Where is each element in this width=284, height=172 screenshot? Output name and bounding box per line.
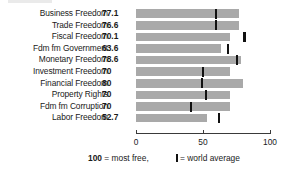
- legend-most-free-text: = most free,: [102, 153, 149, 163]
- bar-track: [136, 79, 284, 88]
- category-label: Monetary Freedom: [0, 54, 108, 66]
- chart-row: Business Freedom77.1: [0, 8, 284, 20]
- world-average-marker: [205, 90, 207, 100]
- legend-world-average-text: = world average: [180, 153, 240, 163]
- world-average-marker: [218, 113, 220, 123]
- legend-most-free: 100 = most free,: [88, 151, 149, 165]
- legend-most-free-value: 100: [88, 153, 102, 163]
- x-axis-tick: [203, 130, 204, 134]
- chart-row: Trade Freedom76.6: [0, 20, 284, 32]
- bar-track: [136, 21, 284, 30]
- category-label: Trade Freedom: [0, 20, 108, 32]
- chart-row: Financial Freedom80: [0, 78, 284, 90]
- x-axis-tick: [270, 130, 271, 134]
- world-average-marker: [190, 102, 192, 112]
- world-average-marker: [236, 55, 238, 65]
- chart-row: Property Rights70: [0, 89, 284, 101]
- world-average-marker: [215, 20, 217, 30]
- chart-row: Fdm fm Corruption70: [0, 101, 284, 113]
- value-bar: [136, 21, 239, 30]
- category-label: Labor Freedom: [0, 112, 108, 124]
- value-label: 70.1: [102, 31, 129, 43]
- world-average-marker: [227, 44, 229, 54]
- chart-row: Monetary Freedom78.6: [0, 54, 284, 66]
- chart-row: Investment Freedom70: [0, 66, 284, 78]
- value-label: 63.6: [102, 43, 129, 55]
- bar-track: [136, 9, 284, 18]
- value-bar: [136, 33, 230, 42]
- value-bar: [136, 114, 207, 123]
- value-bar: [136, 67, 230, 76]
- value-label: 70: [102, 89, 129, 101]
- category-label: Property Rights: [0, 89, 108, 101]
- value-bar: [136, 79, 243, 88]
- value-label: 76.6: [102, 20, 129, 32]
- category-label: Business Freedom: [0, 8, 108, 20]
- x-axis-tick-label: 50: [198, 137, 207, 147]
- chart-row: Labor Freedom52.7: [0, 112, 284, 124]
- value-label: 77.1: [102, 8, 129, 20]
- world-average-marker: [215, 9, 217, 19]
- bar-track: [136, 56, 284, 65]
- legend-world-average: = world average: [176, 151, 240, 165]
- bar-track: [136, 102, 284, 111]
- economic-freedom-bar-chart: Business Freedom77.1Trade Freedom76.6Fis…: [0, 0, 284, 172]
- bar-track: [136, 91, 284, 100]
- category-label: Fdm fm Corruption: [0, 101, 108, 113]
- value-label: 80: [102, 78, 129, 90]
- bar-track: [136, 44, 284, 53]
- x-axis-tick-label: 0: [134, 137, 139, 147]
- category-label: Financial Freedom: [0, 78, 108, 90]
- value-label: 70: [102, 101, 129, 113]
- world-average-marker: [243, 32, 245, 42]
- chart-row: Fdm fm Government63.6: [0, 43, 284, 55]
- value-label: 70: [102, 66, 129, 78]
- cropped-title-remnant: [8, 0, 52, 3]
- bar-track: [136, 114, 284, 123]
- value-bar: [136, 91, 230, 100]
- category-label: Fdm fm Government: [0, 43, 108, 55]
- bar-track: [136, 67, 284, 76]
- chart-row: Fiscal Freedom70.1: [0, 31, 284, 43]
- chart-legend: 100 = most free, = world average: [0, 151, 284, 165]
- world-average-marker: [202, 67, 204, 77]
- value-label: 78.6: [102, 54, 129, 66]
- value-bar: [136, 102, 230, 111]
- world-average-marker: [201, 78, 203, 88]
- category-label: Fiscal Freedom: [0, 31, 108, 43]
- value-bar: [136, 9, 239, 18]
- value-bar: [136, 44, 221, 53]
- x-axis-tick-label: 100: [263, 137, 277, 147]
- x-axis-line: 050100: [136, 133, 270, 134]
- bar-track: [136, 33, 284, 42]
- value-bar: [136, 56, 241, 65]
- x-axis-tick: [136, 130, 137, 134]
- world-average-marker-icon: [176, 154, 178, 162]
- category-label: Investment Freedom: [0, 66, 108, 78]
- value-label: 52.7: [102, 112, 129, 124]
